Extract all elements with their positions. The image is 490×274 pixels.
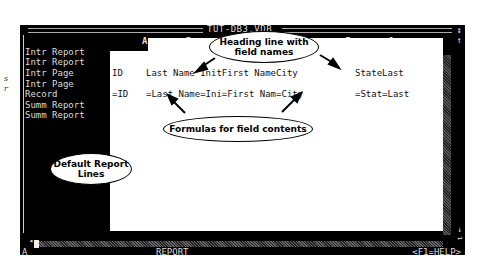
heading-line-callout: Heading line with field names [209, 31, 319, 63]
default-report-lines-callout: Default Report Lines [50, 153, 132, 185]
formulas-callout: Formulas for field contents [163, 116, 313, 142]
